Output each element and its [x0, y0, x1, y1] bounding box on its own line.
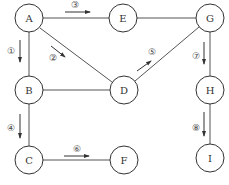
node-label-h: H: [206, 85, 215, 96]
edge-g-d: [135, 27, 199, 81]
step-label-1: ①: [7, 46, 15, 56]
step-label-4: ④: [7, 123, 15, 133]
node-f: F: [110, 146, 138, 174]
step-label-5: ⑤: [148, 47, 156, 57]
node-label-i: I: [208, 153, 212, 164]
node-label-c: C: [25, 155, 33, 166]
step-label-7: ⑦: [192, 51, 200, 61]
node-h: H: [196, 76, 224, 104]
node-label-e: E: [119, 13, 126, 24]
node-e: E: [109, 4, 137, 32]
graph-svg: ① ② ③ ④ ⑤ ⑥ ⑦ ⑧ A E G B: [0, 0, 229, 185]
node-i: I: [196, 144, 224, 172]
graph-diagram: ① ② ③ ④ ⑤ ⑥ ⑦ ⑧ A E G B: [0, 0, 229, 185]
node-label-g: G: [206, 13, 214, 24]
nodes: A E G B D H C: [15, 4, 224, 174]
step-label-6: ⑥: [73, 144, 81, 154]
node-a: A: [15, 4, 43, 32]
node-c: C: [15, 146, 43, 174]
node-g: G: [196, 4, 224, 32]
step-label-2: ②: [49, 53, 57, 63]
node-d: D: [110, 76, 138, 104]
node-b: B: [15, 76, 43, 104]
node-label-d: D: [120, 85, 128, 96]
node-label-a: A: [24, 13, 33, 24]
step-label-3: ③: [71, 0, 79, 10]
node-label-b: B: [25, 85, 32, 96]
node-label-f: F: [121, 155, 128, 166]
step-label-8: ⑧: [192, 123, 200, 133]
